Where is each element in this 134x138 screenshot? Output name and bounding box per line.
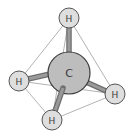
bonds-front xyxy=(55,88,63,111)
hydrogen-label: H xyxy=(112,90,119,100)
hydrogen-right: H xyxy=(105,84,125,104)
hydrogen-left: H xyxy=(9,71,29,91)
methane-diagram: C H H H H xyxy=(0,0,134,138)
hydrogen-top: H xyxy=(59,8,79,28)
hydrogen-bottom: H xyxy=(42,110,62,130)
bond-right-inner xyxy=(86,82,106,91)
hydrogen-label: H xyxy=(49,116,56,126)
molecule-svg: C H H H H xyxy=(0,0,134,138)
carbon-label: C xyxy=(65,67,73,80)
hydrogen-label: H xyxy=(16,77,23,87)
hydrogen-label: H xyxy=(66,14,73,24)
carbon-atom: C xyxy=(48,52,90,94)
